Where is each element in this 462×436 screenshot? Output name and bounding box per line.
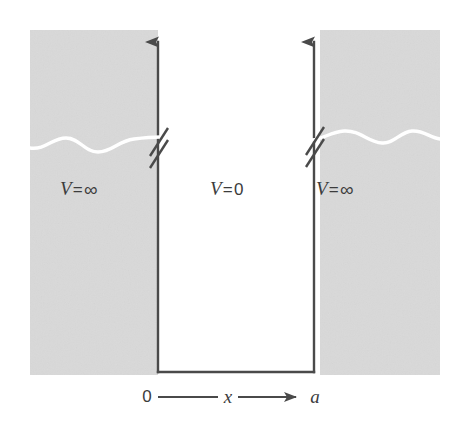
label-center-value: 0 — [234, 180, 244, 199]
label-right-equals: = — [328, 180, 340, 199]
shaded-regions — [30, 30, 440, 375]
label-potential-right: V=∞ — [316, 178, 354, 200]
potential-well-outline — [158, 42, 314, 372]
axis-end-label: a — [310, 386, 320, 408]
label-left-symbol: V — [60, 178, 72, 199]
label-potential-left: V=∞ — [60, 178, 98, 200]
axis-origin-label: 0 — [142, 387, 151, 407]
axis-break-marks — [150, 127, 324, 168]
axis-variable-label: x — [224, 386, 232, 408]
shaded-region-left — [30, 30, 158, 375]
label-potential-center: V=0 — [210, 178, 244, 200]
label-right-value: ∞ — [340, 179, 354, 200]
potential-well-figure: V=∞ V=0 V=∞ 0xa — [0, 0, 462, 436]
figure-canvas — [0, 0, 462, 436]
shaded-region-right — [320, 30, 440, 375]
label-left-value: ∞ — [84, 179, 98, 200]
label-center-equals: = — [222, 180, 234, 199]
label-right-symbol: V — [316, 178, 328, 199]
x-axis-caption: 0xa — [0, 386, 462, 408]
label-center-symbol: V — [210, 178, 222, 199]
label-left-equals: = — [72, 180, 84, 199]
axis-line-right-segment — [232, 391, 310, 403]
axis-line-left-segment — [152, 391, 224, 403]
